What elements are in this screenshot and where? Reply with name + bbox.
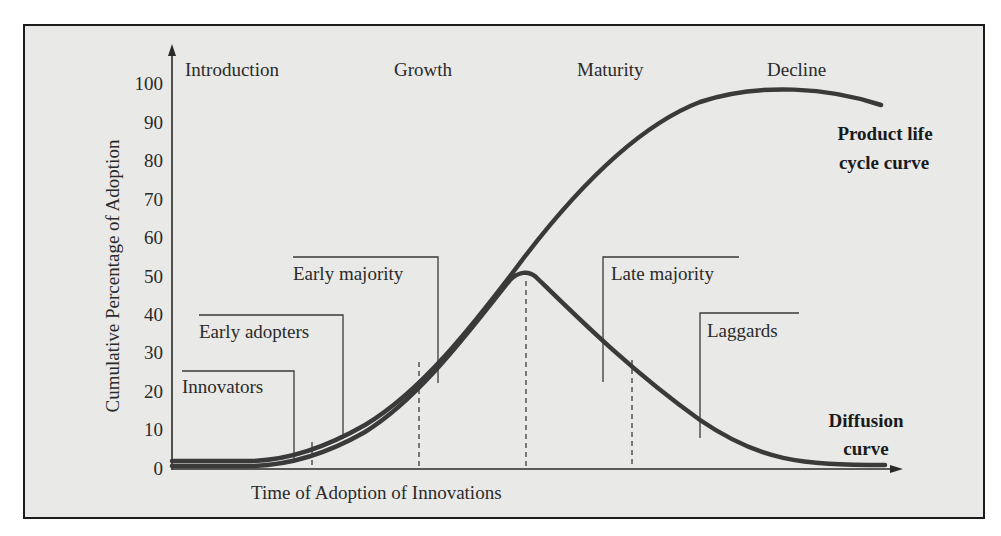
product-life-cycle-curve: [172, 89, 881, 461]
diffusion-curve: [172, 273, 885, 466]
y-tick: 80: [144, 150, 163, 171]
y-tick: 10: [144, 419, 163, 440]
y-tick: 70: [144, 189, 163, 210]
y-tick-labels: 100 90 80 70 60 50 40 30 20 10 0: [135, 73, 164, 479]
label-early-majority: Early majority: [293, 263, 404, 284]
dashed-dividers: [312, 281, 632, 468]
stage-decline: Decline: [767, 59, 826, 80]
plc-label-line1: Product life: [837, 123, 932, 144]
y-tick: 90: [144, 112, 163, 133]
stage-introduction: Introduction: [185, 59, 279, 80]
y-axis-arrow-icon: [168, 44, 176, 56]
y-tick: 100: [135, 73, 164, 94]
y-tick: 60: [144, 227, 163, 248]
x-axis-label: Time of Adoption of Innovations: [251, 482, 502, 503]
y-tick: 0: [154, 458, 164, 479]
diffusion-label-line1: Diffusion: [829, 410, 904, 431]
stage-maturity: Maturity: [577, 59, 644, 80]
y-tick: 20: [144, 381, 163, 402]
axes: [168, 44, 903, 473]
category-brackets: [182, 257, 799, 459]
y-axis-label: Cumulative Percentage of Adoption: [102, 139, 123, 412]
x-axis-arrow-icon: [890, 465, 903, 473]
stage-labels: Introduction Growth Maturity Decline: [185, 59, 826, 80]
curve-labels: Product life cycle curve Diffusion curve: [829, 123, 933, 459]
label-late-majority: Late majority: [611, 263, 714, 284]
y-tick: 40: [144, 304, 163, 325]
label-early-adopters: Early adopters: [199, 321, 309, 342]
y-tick: 30: [144, 342, 163, 363]
diffusion-chart: 100 90 80 70 60 50 40 30 20 10 0 Cumulat…: [0, 0, 1001, 536]
category-labels: Innovators Early adopters Early majority…: [182, 263, 778, 397]
plc-label-line2: cycle curve: [839, 152, 929, 173]
label-innovators: Innovators: [182, 376, 263, 397]
stage-growth: Growth: [394, 59, 453, 80]
label-laggards: Laggards: [707, 320, 778, 341]
diffusion-label-line2: curve: [843, 438, 888, 459]
y-tick: 50: [144, 266, 163, 287]
